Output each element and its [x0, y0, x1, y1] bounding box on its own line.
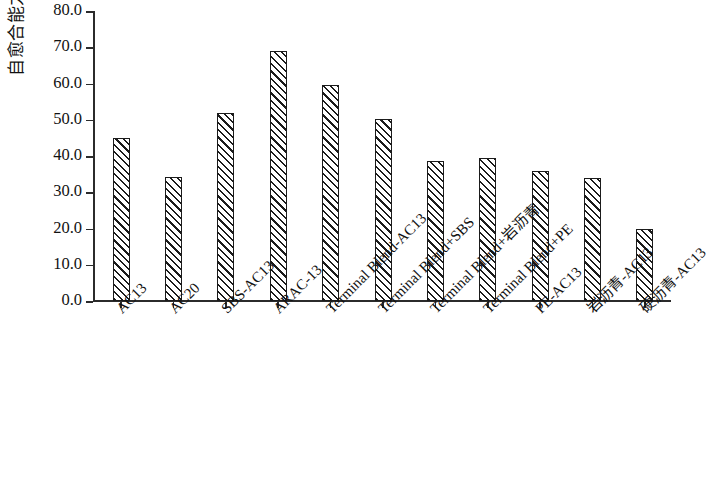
bar — [427, 161, 444, 301]
y-tick-10.0: 10.0 — [86, 265, 93, 267]
bar — [322, 85, 339, 301]
bar — [532, 171, 549, 302]
bar — [217, 113, 234, 301]
bar — [165, 177, 182, 301]
x-axis-category-labels: AC13AC20SBS-AC13ARAC-13Terminal Blend-AC… — [93, 305, 681, 483]
y-tick-label: 20.0 — [53, 220, 82, 237]
y-tick-label: 50.0 — [53, 111, 82, 128]
y-tick-label: 30.0 — [53, 184, 82, 201]
bar — [113, 138, 130, 301]
y-tick-label: 40.0 — [53, 147, 82, 164]
y-tick-0.0: 0.0 — [86, 301, 93, 303]
y-tick-80.0: 80.0 — [86, 11, 93, 13]
y-tick-70.0: 70.0 — [86, 47, 93, 49]
y-tick-label: 80.0 — [53, 2, 82, 19]
y-tick-60.0: 60.0 — [86, 84, 93, 86]
y-axis-title: 自愈合能力/% — [2, 0, 26, 102]
y-tick-50.0: 50.0 — [86, 120, 93, 122]
y-tick-label: 0.0 — [61, 292, 82, 309]
y-tick-20.0: 20.0 — [86, 229, 93, 231]
y-tick-label: 60.0 — [53, 75, 82, 92]
bar — [584, 178, 601, 301]
y-tick-label: 10.0 — [53, 256, 82, 273]
bar — [479, 158, 496, 301]
y-tick-40.0: 40.0 — [86, 156, 93, 158]
y-tick-30.0: 30.0 — [86, 192, 93, 194]
y-tick-label: 70.0 — [53, 39, 82, 56]
